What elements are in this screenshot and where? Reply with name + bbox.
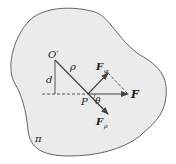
svg-text:ρ: ρ [103,122,108,130]
force-label: F [130,88,140,101]
svg-text:F: F [95,116,104,127]
radius-label: ρ [69,61,76,72]
point-label: P [80,96,88,107]
svg-text:F: F [95,61,104,72]
distance-label: d [46,74,52,85]
force-moment-diagram: O′ d ρ P θ F F φ F ρ π [0,0,176,164]
plane-label: π [34,133,42,144]
origin-label: O′ [48,49,59,60]
angle-label: θ [95,96,101,106]
